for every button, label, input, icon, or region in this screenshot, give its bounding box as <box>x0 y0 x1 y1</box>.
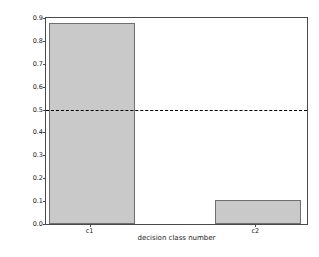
bar-c2 <box>215 200 301 224</box>
y-tick-label: 0.9 <box>33 14 43 22</box>
y-tick-label: 0.5 <box>33 106 43 114</box>
y-tick-mark <box>43 224 46 225</box>
y-tick-label: 0.2 <box>33 174 43 182</box>
y-tick-label: 0.0 <box>33 220 43 228</box>
y-tick-label: 0.1 <box>33 197 43 205</box>
threshold-line <box>46 110 307 111</box>
y-tick-label: 0.8 <box>33 37 43 45</box>
x-axis-label: decision class number <box>45 234 308 242</box>
chart-screenshot: the percentage size of decision class 0.… <box>0 0 319 257</box>
y-tick-label: 0.6 <box>33 83 43 91</box>
plot-frame: 0.0 0.1 0.2 0.3 0.4 0.5 0.6 0.7 0.8 0.9 … <box>45 17 308 225</box>
y-tick-label: 0.3 <box>33 151 43 159</box>
y-tick-label: 0.7 <box>33 60 43 68</box>
y-tick-label: 0.4 <box>33 128 43 136</box>
bar-c1 <box>49 23 135 224</box>
plot-area <box>46 18 307 224</box>
